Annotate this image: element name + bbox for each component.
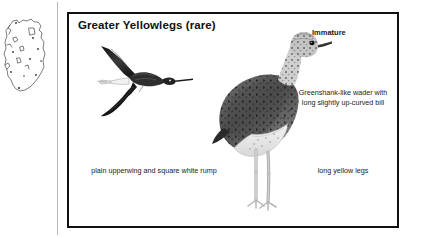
distribution-map-icon: [0, 14, 52, 106]
caption-rump: plain upperwing and square white rump: [80, 166, 228, 176]
caption-legs: long yellow legs: [293, 166, 393, 176]
illustration-plate: Greater Yellowlegs (rare) Immature: [67, 12, 399, 228]
flying-wader-illustration: [77, 44, 201, 126]
page-title: Greater Yellowlegs (rare): [78, 19, 216, 31]
column-divider: [57, 2, 58, 235]
caption-bill: Greenshank-like wader with long slightly…: [291, 88, 395, 107]
field-guide-page: Greater Yellowlegs (rare) Immature: [0, 0, 423, 237]
standing-wader-illustration: [206, 22, 332, 226]
